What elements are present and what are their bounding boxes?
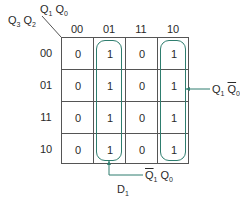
group-label-sub: 1 bbox=[154, 176, 158, 183]
group-label-var: Q bbox=[212, 83, 221, 95]
group-label-var-barred: Q bbox=[145, 169, 154, 181]
map-title-sub: 1 bbox=[125, 190, 129, 197]
group-label-var: Q bbox=[161, 169, 170, 181]
group-label-var-barred: Q bbox=[228, 83, 237, 95]
map-title: D1 bbox=[117, 183, 129, 195]
group-label-sub: 0 bbox=[236, 90, 240, 97]
map-title-text: D1 bbox=[117, 183, 129, 195]
group-label-sub: 1 bbox=[221, 90, 225, 97]
group-label-q1-q0bar: Q1 Q0 bbox=[212, 83, 240, 97]
group-pointer-lines bbox=[0, 0, 240, 199]
group-label-q1bar-q0: Q1 Q0 bbox=[145, 169, 173, 183]
group-label-sub: 0 bbox=[169, 176, 173, 183]
